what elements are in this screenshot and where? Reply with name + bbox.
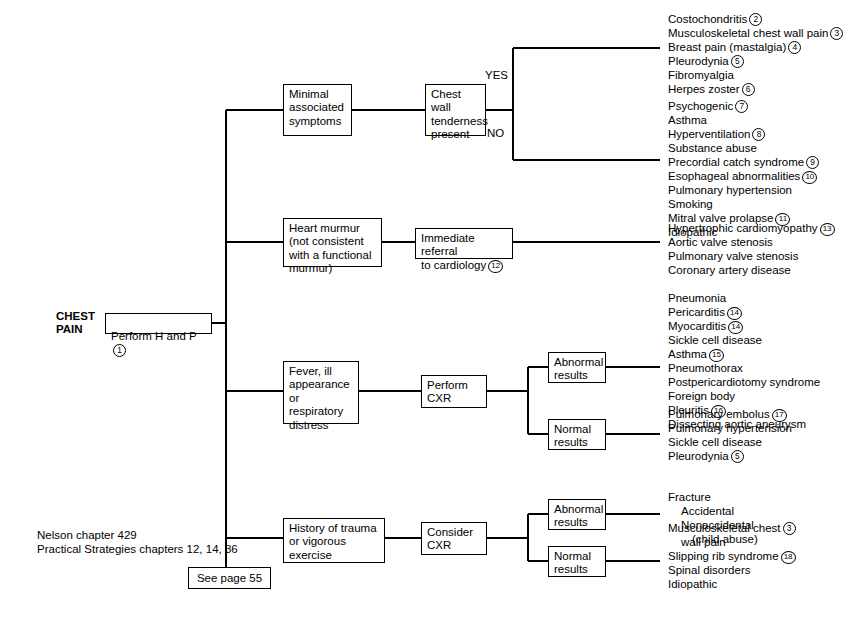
- outcome-item-label: Slipping rib syndrome: [668, 550, 779, 562]
- outcome-item: Hypertrophic cardiomyopathy13: [668, 221, 835, 235]
- outcome-item: Herpes zoster6: [668, 82, 843, 96]
- node-immediate-referral-cardiology[interactable]: Immediate referral to cardiology12: [415, 228, 513, 259]
- branch-label-yes: YES: [485, 69, 508, 82]
- outcome-item-label: Hyperventilation: [668, 128, 750, 140]
- outcome-item-label: Myocarditis: [668, 320, 726, 332]
- ref-badge-5: 5: [731, 55, 744, 68]
- outcome-item-label: Pleurodynia: [668, 450, 729, 462]
- outcome-list-cxr-normal: Pulmonary embolus17Pulmonary hypertensio…: [668, 407, 792, 463]
- node-minimal-associated-symptoms[interactable]: Minimal associated symptoms: [283, 84, 352, 136]
- outcome-list-tenderness-yes: Costochondritis2Musculoskeletal chest wa…: [668, 12, 843, 96]
- ref-badge-7: 7: [735, 100, 748, 113]
- outcome-item-label: Spinal disorders: [668, 564, 750, 576]
- outcome-item-label: Pulmonary embolus: [668, 408, 770, 420]
- outcome-item: Foreign body: [668, 389, 820, 403]
- outcome-item: Asthma: [668, 113, 819, 127]
- branch-label-no: NO: [487, 127, 504, 140]
- node-history-of-trauma[interactable]: History of trauma or vigorous exercise: [283, 518, 385, 563]
- node-consider-cxr[interactable]: Consider CXR: [421, 522, 487, 555]
- outcome-item-label: Substance abuse: [668, 142, 757, 154]
- node-abnormal-results-trauma[interactable]: Abnormal results: [548, 499, 606, 530]
- outcome-item: Hyperventilation8: [668, 127, 819, 141]
- outcome-item-label: Idiopathic: [668, 578, 717, 590]
- outcome-item: Coronary artery disease: [668, 263, 835, 277]
- outcome-item: Esophageal abnormalities10: [668, 169, 819, 183]
- flowchart-canvas: CHEST PAIN Perform H and P1 Minimal asso…: [0, 0, 868, 621]
- ref-badge-1: 1: [113, 344, 126, 357]
- outcome-item-label: Breast pain (mastalgia): [668, 41, 786, 53]
- outcome-item: Postpericardiotomy syndrome: [668, 375, 820, 389]
- outcome-item-label: Pneumothorax: [668, 362, 743, 374]
- outcome-item-label: Fibromyalgia: [668, 69, 734, 81]
- outcome-item-label: Pneumonia: [668, 292, 726, 304]
- outcome-list-cardiology: Hypertrophic cardiomyopathy13Aortic valv…: [668, 221, 835, 277]
- outcome-item-label: Precordial catch syndrome: [668, 156, 804, 168]
- node-normal-results-cxr[interactable]: Normal results: [548, 419, 606, 450]
- ref-badge-2: 2: [749, 13, 762, 26]
- outcome-item: Idiopathic: [668, 577, 796, 591]
- footnote-references: Nelson chapter 429 Practical Strategies …: [37, 528, 238, 556]
- outcome-item: Pleurodynia5: [668, 54, 843, 68]
- outcome-item-label: Sickle cell disease: [668, 436, 762, 448]
- outcome-item: Aortic valve stenosis: [668, 235, 835, 249]
- outcome-item: Musculoskeletal chest wall pain3: [668, 26, 843, 40]
- outcome-item-label: Esophageal abnormalities: [668, 170, 800, 182]
- ref-badge-17: 17: [772, 409, 787, 422]
- outcome-item-label: Fracture: [668, 491, 711, 503]
- outcome-item: Pleurodynia5: [668, 449, 792, 463]
- outcome-item-label: Costochondritis: [668, 13, 747, 25]
- outcome-item: Pulmonary hypertension: [668, 421, 792, 435]
- ref-badge-14: 14: [728, 321, 743, 334]
- ref-badge-5: 5: [731, 450, 744, 463]
- ref-badge-18: 18: [781, 551, 796, 564]
- node-see-page-55[interactable]: See page 55: [188, 567, 271, 589]
- root-label-chest-pain: CHEST PAIN: [56, 310, 95, 337]
- outcome-item-label: Pulmonary valve stenosis: [668, 250, 798, 262]
- outcome-item: Costochondritis2: [668, 12, 843, 26]
- node-normal-results-trauma[interactable]: Normal results: [548, 546, 606, 577]
- outcome-item: Accidental: [668, 504, 758, 518]
- outcome-item: Sickle cell disease: [668, 333, 820, 347]
- outcome-item-label: Asthma: [668, 114, 707, 126]
- outcome-item-label: Pleurodynia: [668, 55, 729, 67]
- outcome-item: Smoking: [668, 197, 819, 211]
- outcome-item-label: Coronary artery disease: [668, 264, 791, 276]
- outcome-item: Myocarditis14: [668, 319, 820, 333]
- outcome-item: Slipping rib syndrome18: [668, 549, 796, 563]
- outcome-item: Psychogenic7: [668, 99, 819, 113]
- outcome-item: Pericarditis14: [668, 305, 820, 319]
- outcome-item: Pneumothorax: [668, 361, 820, 375]
- node-chest-wall-tenderness[interactable]: Chest wall tenderness present: [425, 84, 486, 136]
- outcome-item: Asthma15: [668, 347, 820, 361]
- outcome-item-label: Aortic valve stenosis: [668, 236, 773, 248]
- outcome-item-label: Postpericardiotomy syndrome: [668, 376, 820, 388]
- outcome-list-trauma-normal: Musculoskeletal chest3wall painSlipping …: [668, 521, 796, 591]
- outcome-item-label: Hypertrophic cardiomyopathy: [668, 222, 818, 234]
- node-perform-h-and-p-label: Perform H and P: [111, 330, 197, 342]
- outcome-item-label: Musculoskeletal chest wall pain: [668, 27, 828, 39]
- outcome-item-label: Accidental: [681, 505, 734, 517]
- node-perform-h-and-p[interactable]: Perform H and P1: [105, 313, 212, 334]
- outcome-item-label: Pulmonary hypertension: [668, 184, 792, 196]
- ref-badge-3: 3: [830, 27, 843, 40]
- outcome-item-label: Pericarditis: [668, 306, 725, 318]
- outcome-item: Pulmonary embolus17: [668, 407, 792, 421]
- node-fever-ill-appearance[interactable]: Fever, ill appearance or respiratory dis…: [283, 361, 359, 424]
- node-abnormal-results-cxr[interactable]: Abnormal results: [548, 352, 606, 383]
- ref-badge-4: 4: [788, 41, 801, 54]
- outcome-item-label: Asthma: [668, 348, 707, 360]
- outcome-item: Breast pain (mastalgia)4: [668, 40, 843, 54]
- outcome-item-label: wall pain: [681, 536, 726, 548]
- outcome-item-label: Musculoskeletal chest: [668, 522, 781, 534]
- outcome-item-label: Smoking: [668, 198, 713, 210]
- outcome-list-tenderness-no: Psychogenic7AsthmaHyperventilation8Subst…: [668, 99, 819, 239]
- node-heart-murmur[interactable]: Heart murmur (not consistent with a func…: [283, 218, 382, 267]
- outcome-item-label: Pulmonary hypertension: [668, 422, 792, 434]
- node-perform-cxr[interactable]: Perform CXR: [421, 375, 487, 408]
- outcome-item: Fracture: [668, 490, 758, 504]
- outcome-item-label: Foreign body: [668, 390, 735, 402]
- ref-badge-3: 3: [783, 522, 796, 535]
- ref-badge-13: 13: [820, 223, 835, 236]
- outcome-item-label: Herpes zoster: [668, 83, 740, 95]
- ref-badge-14: 14: [727, 307, 742, 320]
